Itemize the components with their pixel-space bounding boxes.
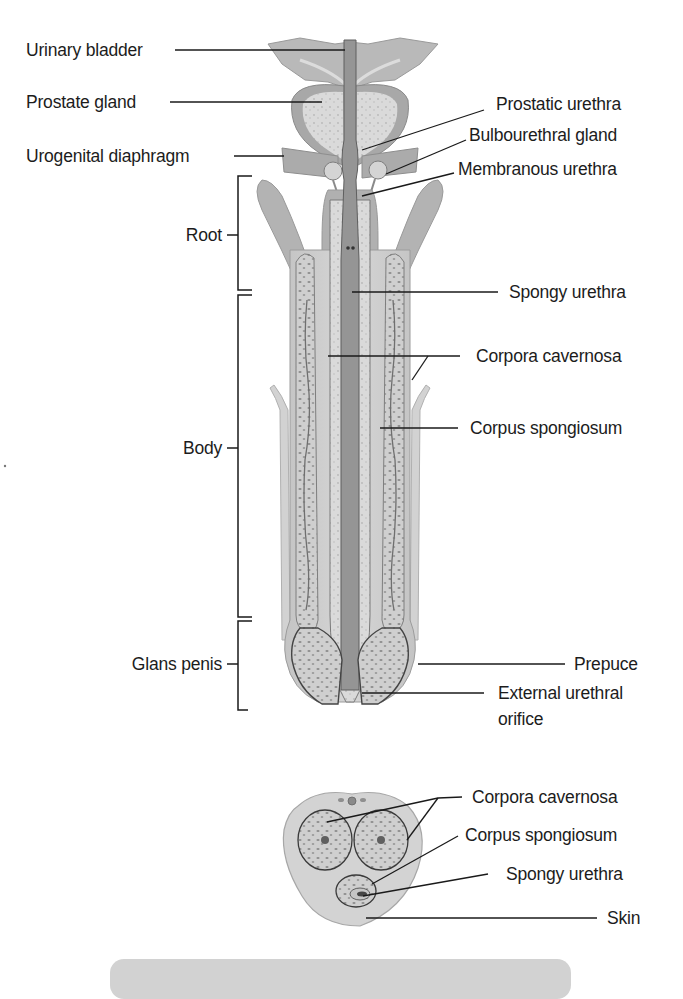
label-bulbourethral-gland: Bulbourethral gland bbox=[469, 125, 617, 145]
label-membranous-urethra: Membranous urethra bbox=[458, 159, 617, 179]
region-brackets bbox=[227, 176, 252, 710]
cross-section-shape bbox=[283, 793, 422, 927]
label-prostatic-urethra: Prostatic urethra bbox=[496, 94, 621, 114]
label-urinary-bladder: Urinary bladder bbox=[26, 40, 143, 60]
label-corpora-cavernosa: Corpora cavernosa bbox=[476, 346, 621, 366]
urethra-shape bbox=[341, 40, 359, 690]
duct-opening-dot bbox=[346, 246, 350, 250]
label-spongy-urethra: Spongy urethra bbox=[509, 282, 626, 302]
label-external-urethral-orifice-line1: External urethral bbox=[498, 683, 623, 703]
label-cs-skin: Skin bbox=[607, 908, 640, 928]
label-prostate-gland: Prostate gland bbox=[26, 92, 136, 112]
label-root: Root bbox=[186, 225, 222, 245]
label-prepuce: Prepuce bbox=[574, 654, 638, 674]
label-body: Body bbox=[183, 438, 222, 458]
label-urogenital-diaphragm: Urogenital diaphragm bbox=[26, 146, 189, 166]
label-cs-spongy-urethra: Spongy urethra bbox=[506, 864, 623, 884]
label-cs-corpus-spongiosum: Corpus spongiosum bbox=[465, 825, 617, 845]
speck-mark bbox=[4, 465, 6, 467]
label-external-urethral-orifice-line2: orifice bbox=[498, 709, 543, 729]
duct-opening-dot bbox=[351, 246, 355, 250]
label-glans-penis: Glans penis bbox=[132, 654, 222, 674]
label-cs-corpora-cavernosa: Corpora cavernosa bbox=[472, 787, 617, 807]
caption-box bbox=[110, 959, 571, 999]
label-corpus-spongiosum: Corpus spongiosum bbox=[470, 418, 622, 438]
